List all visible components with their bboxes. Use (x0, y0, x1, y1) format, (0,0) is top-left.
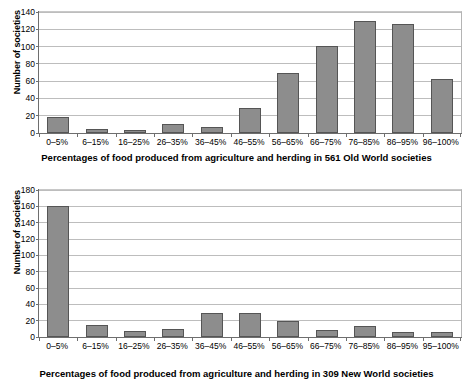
y-axis-tick (36, 29, 39, 30)
y-axis-tick-label: 20 (26, 111, 35, 120)
bar (277, 73, 299, 133)
y-axis-tick-label: 180 (21, 186, 35, 195)
bar (162, 329, 184, 337)
x-axis-tick (192, 337, 193, 341)
x-axis-tick (154, 337, 155, 341)
bar (392, 24, 414, 133)
bar (86, 325, 108, 337)
y-axis-tick-label: 100 (21, 251, 35, 260)
x-axis-title-bottom: Percentages of food produced from agricu… (0, 368, 473, 379)
x-axis-tick (77, 337, 78, 341)
y-axis-tick (36, 222, 39, 223)
x-axis-tick-label: 0–5% (46, 138, 68, 147)
x-axis-tick (460, 337, 461, 341)
x-axis-tick-label: 66–75% (310, 342, 341, 351)
bar (47, 117, 69, 133)
y-axis-tick-label: 80 (26, 60, 35, 69)
x-axis-tick (346, 133, 347, 137)
x-axis-tick (269, 337, 270, 341)
figure-container: Number of societies 020406080100120140 P… (0, 0, 473, 390)
x-axis-tick-label: 6–15% (82, 138, 108, 147)
x-axis-tick-label: 0–5% (46, 342, 68, 351)
bar (239, 108, 261, 133)
y-axis-tick-label: 40 (26, 300, 35, 309)
y-axis-tick (36, 98, 39, 99)
x-axis-tick (269, 133, 270, 137)
x-axis-tick-label: 96–100% (423, 138, 459, 147)
x-axis-tick (116, 337, 117, 341)
x-axis-tick (308, 133, 309, 137)
y-axis-title-top: Number of societies (0, 10, 16, 132)
y-axis-title-bottom: Number of societies (0, 190, 16, 338)
x-axis-tick (39, 337, 40, 341)
gridline (39, 239, 461, 240)
x-axis-tick-label: 86–95% (387, 138, 418, 147)
x-axis-tick-label: 16–25% (118, 138, 149, 147)
x-axis-tick-label: 46–55% (233, 342, 264, 351)
y-axis-tick-label: 20 (26, 316, 35, 325)
bar (354, 326, 376, 337)
y-axis-tick-label: 140 (21, 8, 35, 17)
chart-old-world: Number of societies 020406080100120140 P… (0, 0, 473, 172)
y-axis-tick-label: 120 (21, 25, 35, 34)
y-axis-tick (36, 288, 39, 289)
x-axis-tick-label: 16–25% (118, 342, 149, 351)
chart-new-world: Number of societies 02040608010012014016… (0, 180, 473, 390)
gridline (39, 255, 461, 256)
y-axis-tick-label: 0 (30, 129, 35, 138)
x-axis-title-top: Percentages of food produced from agricu… (0, 152, 473, 163)
y-axis-tick (36, 115, 39, 116)
y-axis-tick (36, 63, 39, 64)
bar (431, 332, 453, 337)
y-axis-tick-label: 160 (21, 202, 35, 211)
x-axis-tick-label: 26–35% (157, 138, 188, 147)
y-axis-tick-label: 40 (26, 94, 35, 103)
bar (162, 124, 184, 133)
x-axis-tick (460, 133, 461, 137)
x-axis-tick-label: 56–65% (272, 342, 303, 351)
bar (316, 46, 338, 133)
gridline (39, 288, 461, 289)
y-axis-line-bottom (38, 189, 39, 338)
y-axis-tick-label: 80 (26, 267, 35, 276)
x-axis-tick (384, 133, 385, 137)
x-axis-tick-label: 36–45% (195, 342, 226, 351)
y-axis-tick-label: 60 (26, 77, 35, 86)
gridline (39, 271, 461, 272)
x-axis-line-top (38, 133, 462, 134)
x-axis-tick-label: 26–35% (157, 342, 188, 351)
plot-area-old-world: 020406080100120140 (38, 11, 462, 134)
y-axis-tick (36, 12, 39, 13)
x-axis-tick (384, 337, 385, 341)
x-axis-tick (154, 133, 155, 137)
bar (201, 313, 223, 338)
plot-area-new-world: 020406080100120140160180 (38, 189, 462, 338)
x-axis-line-bottom (38, 337, 462, 338)
y-axis-tick (36, 320, 39, 321)
x-axis-tick (231, 133, 232, 137)
x-axis-tick-label: 6–15% (82, 342, 108, 351)
x-axis-tick-label: 86–95% (387, 342, 418, 351)
gridline (39, 206, 461, 207)
x-axis-tick (231, 337, 232, 341)
x-axis-tick-label: 46–55% (233, 138, 264, 147)
gridline (39, 190, 461, 191)
x-axis-tick (77, 133, 78, 137)
bar (277, 321, 299, 337)
y-axis-tick (36, 255, 39, 256)
x-axis-tick-label: 76–85% (348, 138, 379, 147)
bar (354, 21, 376, 133)
bar (316, 330, 338, 337)
y-axis-tick (36, 304, 39, 305)
y-axis-tick-label: 0 (30, 333, 35, 342)
x-axis-tick-label: 76–85% (348, 342, 379, 351)
bar (124, 130, 146, 133)
y-axis-tick (36, 190, 39, 191)
bar (201, 127, 223, 133)
bar (124, 331, 146, 337)
x-axis-tick-label: 36–45% (195, 138, 226, 147)
bar (239, 313, 261, 338)
y-axis-tick-label: 140 (21, 218, 35, 227)
y-axis-tick-label: 120 (21, 235, 35, 244)
x-axis-tick-label: 66–75% (310, 138, 341, 147)
